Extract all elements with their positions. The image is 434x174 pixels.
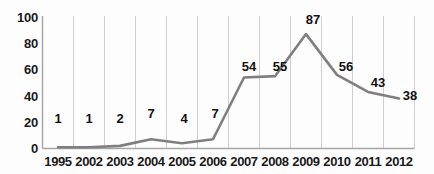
data-label: 56: [339, 60, 353, 73]
vertical-gridlines: [74, 16, 415, 148]
x-axis-tick-label: 2003: [106, 154, 133, 169]
x-axis-tick-label: 2006: [199, 154, 226, 169]
data-label: 2: [116, 112, 123, 125]
data-label: 54: [242, 60, 256, 73]
x-axis-tick-label: 2005: [168, 154, 195, 169]
x-axis-tick-label: 2009: [292, 154, 319, 169]
data-label: 1: [85, 112, 92, 125]
data-label: 1: [54, 112, 61, 125]
data-label: 7: [147, 107, 154, 120]
data-label: 4: [180, 112, 187, 125]
x-axis-tick-label: 2002: [75, 154, 102, 169]
data-label: 87: [306, 13, 320, 26]
data-label: 38: [403, 89, 417, 102]
x-axis-tick-label: 2012: [385, 154, 412, 169]
x-axis-tick-label: 2007: [230, 154, 257, 169]
data-label: 7: [211, 107, 218, 120]
x-axis-tick-label: 2011: [355, 154, 382, 169]
data-label: 43: [371, 76, 385, 89]
x-axis-tick-label: 1995: [44, 154, 71, 169]
data-label: 55: [273, 60, 287, 73]
x-axis-tick-label: 2010: [323, 154, 350, 169]
x-axis-tick-label: 2008: [261, 154, 288, 169]
x-axis-tick-label: 2004: [137, 154, 164, 169]
line-chart: 100 80 60 40 20 0 1 1 2 7 4 7 54 55 87 5…: [0, 0, 434, 174]
plot-area: [0, 0, 434, 174]
